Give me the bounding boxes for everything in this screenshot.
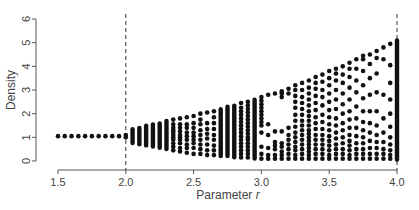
data-point <box>361 156 366 161</box>
data-point <box>320 137 325 142</box>
data-point <box>124 133 129 138</box>
point-band <box>232 103 236 159</box>
data-point <box>327 153 332 158</box>
data-point <box>191 126 196 131</box>
data-point <box>388 81 393 86</box>
data-point <box>334 136 339 141</box>
data-point <box>212 143 217 148</box>
data-point <box>388 135 393 140</box>
data-point <box>327 122 332 127</box>
data-point <box>368 62 373 67</box>
data-point <box>178 116 183 121</box>
data-point <box>368 156 373 161</box>
y-tick-label: 0 <box>20 158 32 164</box>
data-point <box>293 130 298 135</box>
data-point <box>171 117 176 122</box>
data-point <box>327 76 332 81</box>
data-point <box>300 118 305 123</box>
data-point <box>374 140 379 145</box>
data-point <box>300 81 305 86</box>
data-point <box>347 148 352 153</box>
data-point <box>354 57 359 62</box>
data-point <box>347 117 352 122</box>
density-scatter-chart: 01234561.52.02.53.03.54.0 Parameter r De… <box>0 0 419 210</box>
data-point <box>374 56 379 61</box>
data-point <box>368 52 373 57</box>
data-point <box>381 57 386 62</box>
data-point <box>347 109 352 114</box>
data-point <box>76 134 81 139</box>
data-point <box>388 42 393 47</box>
data-point <box>198 133 203 138</box>
data-point <box>327 69 332 74</box>
data-point <box>293 83 298 88</box>
point-band <box>137 126 141 147</box>
data-point <box>300 95 305 100</box>
data-point <box>381 147 386 152</box>
data-point <box>354 156 359 161</box>
data-point <box>266 92 271 97</box>
data-point <box>286 156 291 161</box>
data-point <box>347 153 352 158</box>
data-point <box>327 115 332 120</box>
data-point <box>334 78 339 83</box>
data-point <box>293 145 298 150</box>
data-point <box>286 91 291 96</box>
data-point <box>266 146 271 151</box>
data-point <box>259 156 264 161</box>
data-point <box>205 131 210 136</box>
data-point <box>313 115 318 120</box>
data-point <box>320 152 325 157</box>
y-tick-label: 3 <box>20 87 32 93</box>
data-point <box>198 142 203 147</box>
data-point <box>198 122 203 127</box>
data-point <box>205 136 210 141</box>
point-band <box>158 121 162 150</box>
data-point <box>374 90 379 95</box>
data-point <box>313 87 318 92</box>
data-point <box>191 146 196 151</box>
data-point <box>354 152 359 157</box>
data-point <box>334 88 339 93</box>
data-point <box>313 147 318 152</box>
data-point <box>374 109 379 114</box>
data-point <box>361 141 366 146</box>
data-point <box>354 147 359 152</box>
data-point <box>327 108 332 113</box>
data-point <box>293 153 298 158</box>
data-point <box>212 115 217 120</box>
data-point <box>286 152 291 157</box>
data-point <box>286 133 291 138</box>
data-point <box>279 129 284 134</box>
data-point <box>300 133 305 138</box>
x-axis-label: Parameter r <box>196 188 260 202</box>
axes: 01234561.52.02.53.03.54.0 <box>20 16 405 188</box>
data-point <box>205 110 210 115</box>
data-point <box>340 121 345 126</box>
data-point <box>340 91 345 96</box>
data-point <box>313 101 318 106</box>
data-point <box>185 115 190 120</box>
y-tick-label: 5 <box>20 40 32 46</box>
data-point <box>320 95 325 100</box>
data-point <box>374 133 379 138</box>
data-point <box>313 152 318 157</box>
data-point <box>307 114 312 119</box>
data-point <box>320 88 325 93</box>
data-point <box>347 143 352 148</box>
data-point <box>347 133 352 138</box>
data-point <box>178 146 183 151</box>
data-point <box>300 152 305 157</box>
point-band <box>151 122 155 148</box>
data-point <box>381 45 386 50</box>
data-point <box>69 134 74 139</box>
data-point <box>300 113 305 118</box>
data-point <box>320 72 325 77</box>
data-point <box>340 141 345 146</box>
y-axis-label: Density <box>4 70 18 110</box>
data-point <box>286 137 291 142</box>
point-band <box>144 124 148 148</box>
data-point <box>171 122 176 127</box>
data-point <box>388 142 393 147</box>
data-point <box>334 66 339 71</box>
